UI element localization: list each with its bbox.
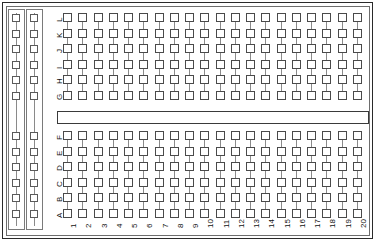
pad-D13[interactable] [246,162,255,171]
power-rail-pad[interactable] [12,92,20,100]
pad-F8[interactable] [170,131,179,140]
pad-K1[interactable] [63,29,72,38]
pad-D11[interactable] [216,162,225,171]
pad-B20[interactable] [353,193,362,202]
pad-L19[interactable] [338,13,347,22]
pad-K5[interactable] [124,29,133,38]
pad-G17[interactable] [307,91,316,100]
pad-F17[interactable] [307,131,316,140]
pad-E11[interactable] [216,147,225,156]
pad-E10[interactable] [200,147,209,156]
pad-L16[interactable] [292,13,301,22]
power-rail-pad[interactable] [12,194,20,202]
power-rail-pad[interactable] [12,61,20,69]
pad-D18[interactable] [322,162,331,171]
pad-C7[interactable] [155,178,164,187]
pad-H17[interactable] [307,75,316,84]
pad-E4[interactable] [109,147,118,156]
pad-C9[interactable] [185,178,194,187]
pad-H9[interactable] [185,75,194,84]
pad-A10[interactable] [200,209,209,218]
pad-L9[interactable] [185,13,194,22]
pad-J15[interactable] [277,44,286,53]
pad-G12[interactable] [231,91,240,100]
power-rail-pad[interactable] [30,76,38,84]
pad-K12[interactable] [231,29,240,38]
pad-L17[interactable] [307,13,316,22]
power-rail-pad[interactable] [12,45,20,53]
pad-E7[interactable] [155,147,164,156]
pad-H4[interactable] [109,75,118,84]
pad-B17[interactable] [307,193,316,202]
pad-D16[interactable] [292,162,301,171]
pad-K15[interactable] [277,29,286,38]
power-rail-pad[interactable] [12,76,20,84]
pad-A16[interactable] [292,209,301,218]
pad-C11[interactable] [216,178,225,187]
pad-K7[interactable] [155,29,164,38]
power-rail-pad[interactable] [12,30,20,38]
pad-C6[interactable] [139,178,148,187]
pad-J7[interactable] [155,44,164,53]
pad-B12[interactable] [231,193,240,202]
pad-A5[interactable] [124,209,133,218]
pad-C16[interactable] [292,178,301,187]
pad-F10[interactable] [200,131,209,140]
pad-L10[interactable] [200,13,209,22]
pad-I16[interactable] [292,60,301,69]
pad-I1[interactable] [63,60,72,69]
pad-K4[interactable] [109,29,118,38]
pad-G1[interactable] [63,91,72,100]
pad-H6[interactable] [139,75,148,84]
pad-K14[interactable] [261,29,270,38]
pad-F15[interactable] [277,131,286,140]
pad-B14[interactable] [261,193,270,202]
pad-D14[interactable] [261,162,270,171]
pad-A8[interactable] [170,209,179,218]
pad-L3[interactable] [94,13,103,22]
pad-E3[interactable] [94,147,103,156]
pad-G15[interactable] [277,91,286,100]
pad-E8[interactable] [170,147,179,156]
pad-H11[interactable] [216,75,225,84]
pad-I20[interactable] [353,60,362,69]
pad-A15[interactable] [277,209,286,218]
pad-B5[interactable] [124,193,133,202]
pad-H7[interactable] [155,75,164,84]
pad-C8[interactable] [170,178,179,187]
pad-G11[interactable] [216,91,225,100]
power-rail-pad[interactable] [12,14,20,22]
pad-C19[interactable] [338,178,347,187]
pad-B18[interactable] [322,193,331,202]
pad-L15[interactable] [277,13,286,22]
power-rail-pad[interactable] [30,194,38,202]
pad-G8[interactable] [170,91,179,100]
pad-J10[interactable] [200,44,209,53]
pad-C5[interactable] [124,178,133,187]
pad-B1[interactable] [63,193,72,202]
pad-H10[interactable] [200,75,209,84]
pad-K17[interactable] [307,29,316,38]
pad-D15[interactable] [277,162,286,171]
pad-C12[interactable] [231,178,240,187]
power-rail-pad[interactable] [30,132,38,140]
pad-F4[interactable] [109,131,118,140]
pad-B15[interactable] [277,193,286,202]
pad-K16[interactable] [292,29,301,38]
pad-F5[interactable] [124,131,133,140]
pad-J19[interactable] [338,44,347,53]
pad-K8[interactable] [170,29,179,38]
pad-D4[interactable] [109,162,118,171]
pad-A11[interactable] [216,209,225,218]
power-rail-pad[interactable] [30,14,38,22]
pad-I14[interactable] [261,60,270,69]
pad-G10[interactable] [200,91,209,100]
pad-I4[interactable] [109,60,118,69]
pad-L11[interactable] [216,13,225,22]
pad-I9[interactable] [185,60,194,69]
pad-B19[interactable] [338,193,347,202]
pad-A13[interactable] [246,209,255,218]
power-rail-pad[interactable] [30,61,38,69]
pad-A14[interactable] [261,209,270,218]
pad-D7[interactable] [155,162,164,171]
